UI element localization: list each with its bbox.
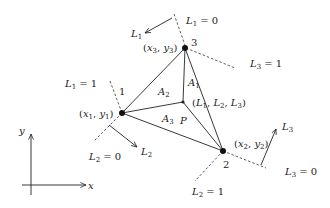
dashed-line-l3-one	[186, 48, 235, 68]
point-p-dot	[181, 100, 184, 103]
l2-direction-arrow	[109, 125, 137, 147]
vertex-3-label: 3	[191, 37, 197, 48]
vertex-2-dot	[220, 148, 226, 154]
l1-zero-label: L1 = 0	[185, 15, 218, 28]
l3-arrow-label: L3	[281, 121, 293, 134]
l1-one-label: L1 = 1	[64, 78, 97, 91]
segment-3-p	[183, 48, 185, 102]
y-axis-label: y	[18, 125, 25, 136]
vertex-3-dot	[182, 45, 188, 51]
l1-direction-arrow	[145, 18, 172, 33]
dashed-line-l2-one	[195, 151, 223, 181]
l2-arrow-label: L2	[140, 146, 152, 159]
dashed-line-l3-zero	[223, 151, 266, 168]
vertex-2-label: 2	[223, 159, 229, 170]
l2-one-label: L2 = 1	[191, 186, 224, 199]
l3-one-label: L3 = 1	[249, 58, 282, 71]
vertex-1-dot	[119, 110, 125, 116]
vertex-1-label: 1	[119, 86, 125, 97]
area-a2-label: A2	[157, 86, 170, 99]
triangle-area-coordinates-diagram: y x 1 2 3 (x1, y1) (x2, y2) (x3, y3) A1 …	[0, 0, 330, 208]
vertex-3-coords: (x3, y3)	[143, 42, 178, 55]
l2-zero-label: L2 = 0	[88, 151, 121, 164]
l1-arrow-label: L1	[130, 28, 142, 41]
l3-zero-label: L3 = 0	[284, 166, 317, 179]
point-p-label: P	[179, 115, 187, 126]
x-axis-label: x	[88, 180, 94, 191]
point-p-coords: (L1, L2, L3)	[192, 97, 246, 110]
vertex-1-coords: (x1, y1)	[79, 108, 114, 121]
area-a3-label: A3	[161, 113, 174, 126]
area-a1-label: A1	[187, 77, 200, 90]
vertex-2-coords: (x2, y2)	[234, 138, 269, 151]
